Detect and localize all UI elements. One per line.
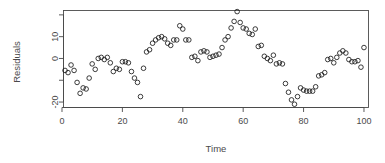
x-tick-label: 80 (299, 116, 309, 126)
x-axis-title: Time (206, 143, 227, 154)
data-point (114, 66, 119, 71)
data-point (359, 65, 364, 70)
y-tick-label: 10 (51, 32, 61, 42)
data-points (63, 9, 367, 106)
data-point (117, 67, 122, 72)
data-point (286, 90, 291, 95)
y-tick-label: -20 (51, 96, 61, 109)
data-point (250, 32, 255, 37)
data-point (229, 26, 234, 31)
data-point (259, 43, 264, 48)
data-point (174, 38, 179, 43)
data-point (226, 34, 231, 39)
x-tick-label: 0 (59, 116, 64, 126)
data-point (126, 61, 131, 66)
data-point (274, 62, 279, 67)
data-point (90, 62, 95, 67)
data-point (211, 54, 216, 59)
data-point (123, 59, 128, 64)
y-axis-title: Residuals (11, 41, 22, 83)
data-point (247, 31, 252, 36)
data-point (316, 74, 321, 79)
data-point (93, 67, 98, 72)
data-point (256, 44, 261, 49)
data-point (190, 55, 195, 60)
data-point (292, 102, 297, 107)
data-point (135, 80, 140, 85)
x-axis: 020406080100 (59, 108, 371, 126)
x-tick-label: 60 (238, 116, 248, 126)
x-tick-label: 20 (117, 116, 127, 126)
data-point (362, 45, 367, 50)
data-point (353, 59, 358, 64)
data-point (129, 69, 134, 74)
data-point (208, 55, 213, 60)
data-point (108, 61, 113, 66)
data-point (313, 84, 318, 89)
data-point (96, 56, 101, 61)
x-tick-label: 100 (356, 116, 371, 126)
residuals-scatter-chart: 020406080100 -20010 Time Residuals (0, 0, 385, 163)
data-point (205, 50, 210, 55)
data-point (180, 27, 185, 32)
data-point (241, 26, 246, 31)
data-point (217, 52, 222, 57)
data-point (328, 56, 333, 61)
data-point (253, 27, 258, 32)
data-point (334, 55, 339, 60)
plot-canvas: 020406080100 -20010 Time Residuals (0, 0, 385, 163)
data-point (220, 45, 225, 50)
data-point (141, 66, 146, 71)
data-point (238, 20, 243, 25)
data-point (72, 68, 77, 73)
data-point (235, 9, 240, 14)
data-point (295, 94, 300, 99)
data-point (289, 98, 294, 103)
data-point (84, 87, 89, 92)
data-point (87, 76, 92, 81)
data-point (280, 62, 285, 67)
data-point (283, 81, 288, 86)
data-point (75, 80, 80, 85)
data-point (81, 86, 86, 91)
data-point (202, 49, 207, 54)
data-point (193, 54, 198, 59)
data-point (244, 27, 249, 32)
y-tick-label: 0 (51, 56, 61, 61)
data-point (325, 57, 330, 62)
data-point (78, 91, 83, 96)
data-point (271, 53, 276, 58)
data-point (310, 89, 315, 94)
data-point (138, 94, 143, 99)
data-point (277, 61, 282, 66)
data-point (331, 61, 336, 66)
x-tick-label: 40 (178, 116, 188, 126)
data-point (214, 53, 219, 58)
data-point (132, 76, 137, 81)
data-point (196, 58, 201, 63)
data-point (356, 58, 361, 63)
data-point (232, 19, 237, 24)
data-point (69, 63, 74, 68)
y-axis: -20010 (51, 15, 64, 109)
data-point (199, 50, 204, 55)
data-point (187, 38, 192, 43)
